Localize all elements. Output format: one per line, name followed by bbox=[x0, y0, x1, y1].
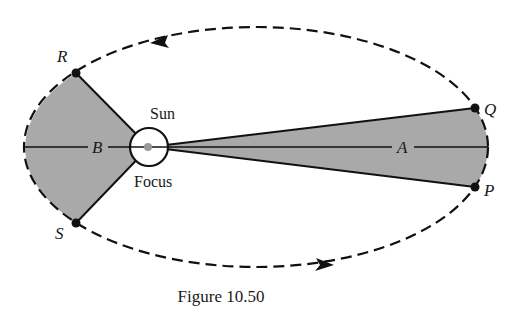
point-p bbox=[471, 183, 480, 192]
kepler-area-diagram: R S Q P B A Sun Focus Figure 10.50 bbox=[0, 0, 510, 313]
label-r: R bbox=[56, 47, 68, 66]
label-focus: Focus bbox=[134, 173, 172, 190]
point-r bbox=[72, 69, 81, 78]
focus-dot bbox=[144, 143, 152, 151]
point-q bbox=[471, 104, 480, 113]
label-sun: Sun bbox=[150, 105, 175, 122]
label-q: Q bbox=[484, 100, 496, 119]
point-s bbox=[72, 219, 81, 228]
label-a: A bbox=[396, 138, 408, 157]
label-b: B bbox=[92, 138, 103, 157]
label-s: S bbox=[55, 224, 64, 243]
label-p: P bbox=[483, 181, 494, 200]
figure-caption: Figure 10.50 bbox=[178, 287, 265, 306]
